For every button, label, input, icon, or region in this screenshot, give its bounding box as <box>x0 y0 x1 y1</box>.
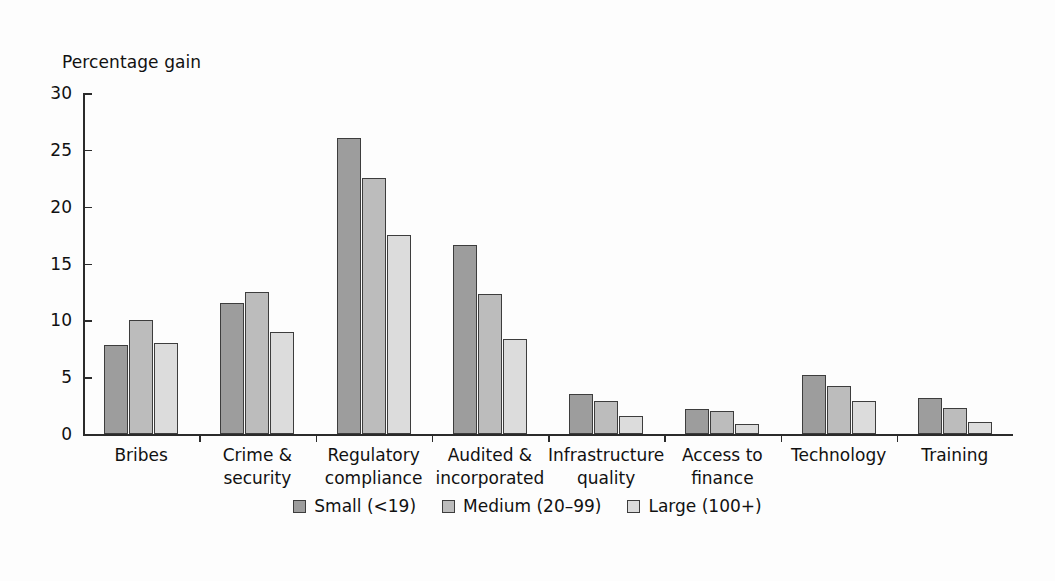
bar <box>710 411 734 434</box>
bar-group <box>220 93 294 434</box>
y-tick-label: 10 <box>50 310 72 330</box>
category-label-line: Regulatory <box>316 444 432 467</box>
bar-group <box>569 93 643 434</box>
y-tick-label: 0 <box>61 424 72 444</box>
bar <box>918 398 942 434</box>
y-tick-label: 25 <box>50 140 72 160</box>
category-label-4: Audited &incorporated <box>432 444 548 490</box>
y-tick-label: 20 <box>50 197 72 217</box>
y-tick-mark <box>83 377 92 379</box>
bar <box>968 422 992 435</box>
bar <box>503 339 527 434</box>
y-tick-label: 5 <box>61 367 72 387</box>
bar <box>735 424 759 434</box>
category-label-line: Infrastructure <box>548 444 664 467</box>
bar <box>685 409 709 434</box>
chart-legend: Small (<19)Medium (20–99)Large (100+) <box>0 496 1055 516</box>
bar-group <box>918 93 992 434</box>
category-label-line: Technology <box>781 444 897 467</box>
y-tick-label: 30 <box>50 83 72 103</box>
legend-swatch-icon <box>442 500 455 513</box>
x-tick-mark <box>781 434 783 442</box>
category-label-line: quality <box>548 467 664 490</box>
category-label-line: compliance <box>316 467 432 490</box>
bar <box>220 303 244 434</box>
bar <box>802 375 826 434</box>
category-label-line: incorporated <box>432 467 548 490</box>
chart-figure: Percentage gain 051015202530 BribesCrime… <box>0 0 1055 581</box>
bar <box>478 294 502 434</box>
bar <box>154 343 178 434</box>
x-tick-mark <box>664 434 666 442</box>
bar <box>827 386 851 434</box>
y-tick-mark <box>83 264 92 266</box>
y-tick-mark <box>83 207 92 209</box>
y-axis-title: Percentage gain <box>62 52 201 72</box>
bar <box>852 401 876 434</box>
category-label-2: Crime &security <box>199 444 315 490</box>
bar <box>245 292 269 434</box>
legend-label: Small (<19) <box>314 496 416 516</box>
bar-group <box>337 93 411 434</box>
bar <box>619 416 643 434</box>
bar <box>943 408 967 434</box>
legend-item-3[interactable]: Large (100+) <box>627 496 761 516</box>
bar <box>129 320 153 434</box>
bar <box>337 138 361 434</box>
category-label-line: Bribes <box>83 444 199 467</box>
bar-group <box>453 93 527 434</box>
x-tick-mark <box>199 434 201 442</box>
category-label-line: Crime & <box>199 444 315 467</box>
x-tick-mark <box>548 434 550 442</box>
y-tick-mark <box>83 434 92 436</box>
category-label-line: security <box>199 467 315 490</box>
y-tick-mark <box>83 320 92 322</box>
category-label-5: Infrastructurequality <box>548 444 664 490</box>
bar <box>569 394 593 434</box>
legend-item-1[interactable]: Small (<19) <box>293 496 416 516</box>
category-label-line: finance <box>664 467 780 490</box>
category-label-1: Bribes <box>83 444 199 467</box>
x-tick-mark <box>432 434 434 442</box>
bar-group <box>802 93 876 434</box>
category-label-line: Training <box>897 444 1013 467</box>
category-label-line: Access to <box>664 444 780 467</box>
category-label-8: Training <box>897 444 1013 467</box>
bar <box>387 235 411 434</box>
bar-group <box>104 93 178 434</box>
bar <box>104 345 128 434</box>
category-label-3: Regulatorycompliance <box>316 444 432 490</box>
x-tick-mark <box>316 434 318 442</box>
bar <box>362 178 386 434</box>
bar <box>270 332 294 434</box>
legend-label: Medium (20–99) <box>463 496 601 516</box>
y-tick-label: 15 <box>50 254 72 274</box>
legend-label: Large (100+) <box>648 496 761 516</box>
category-label-line: Audited & <box>432 444 548 467</box>
bar-group <box>685 93 759 434</box>
plot-area: 051015202530 <box>83 93 1013 434</box>
legend-swatch-icon <box>627 500 640 513</box>
legend-swatch-icon <box>293 500 306 513</box>
category-label-7: Technology <box>781 444 897 467</box>
bar <box>453 245 477 434</box>
y-tick-mark <box>83 150 92 152</box>
x-tick-mark <box>897 434 899 442</box>
legend-item-2[interactable]: Medium (20–99) <box>442 496 601 516</box>
bar <box>594 401 618 434</box>
category-label-6: Access tofinance <box>664 444 780 490</box>
y-tick-mark <box>83 93 92 95</box>
